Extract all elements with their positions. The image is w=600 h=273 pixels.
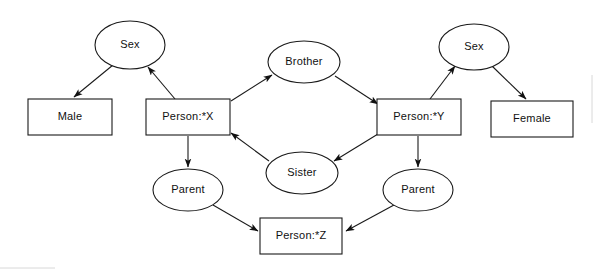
node-label-parent_right: Parent — [401, 183, 435, 195]
node-label-person_z: Person:*Z — [276, 229, 327, 241]
node-person_z[interactable]: Person:*Z — [260, 218, 342, 254]
node-parent_left[interactable]: Parent — [153, 169, 223, 211]
node-person_y[interactable]: Person:*Y — [377, 99, 461, 135]
node-male[interactable]: Male — [28, 99, 112, 135]
edge-person_x-to-sex_left — [148, 67, 175, 99]
node-sex_right[interactable]: Sex — [439, 24, 509, 70]
node-label-sex_right: Sex — [464, 40, 484, 52]
node-label-sister: Sister — [287, 166, 316, 178]
edge-person_y-to-sex_right — [430, 66, 455, 99]
edge-person_x-to-brother — [231, 75, 272, 101]
node-label-male: Male — [58, 110, 83, 122]
node-layer: SexMalePerson:*XBrotherSisterPerson:*YSe… — [28, 21, 573, 254]
edge-brother-to-person_y — [335, 76, 378, 104]
node-label-parent_left: Parent — [171, 183, 205, 195]
edge-parent_left-to-person_z — [213, 205, 258, 231]
edge-layer — [74, 65, 526, 231]
edge-sex_right-to-female — [492, 66, 526, 99]
node-sex_left[interactable]: Sex — [95, 21, 165, 69]
edge-sex_left-to-male — [74, 65, 113, 97]
node-label-sex_left: Sex — [120, 38, 140, 50]
node-label-person_y: Person:*Y — [393, 110, 445, 122]
edge-parent_right-to-person_z — [346, 205, 394, 231]
node-sister[interactable]: Sister — [266, 152, 338, 194]
semantic-network-diagram: SexMalePerson:*XBrotherSisterPerson:*YSe… — [0, 0, 600, 273]
node-female[interactable]: Female — [491, 101, 573, 137]
node-label-brother: Brother — [285, 55, 323, 67]
edge-sister-to-person_x — [231, 133, 269, 161]
node-label-female: Female — [513, 112, 551, 124]
node-label-person_x: Person:*X — [162, 110, 214, 122]
edge-person_y-to-sister — [334, 134, 378, 161]
node-person_x[interactable]: Person:*X — [146, 99, 230, 135]
node-parent_right[interactable]: Parent — [383, 169, 453, 211]
node-brother[interactable]: Brother — [268, 41, 340, 83]
diagram-canvas: SexMalePerson:*XBrotherSisterPerson:*YSe… — [0, 0, 600, 273]
